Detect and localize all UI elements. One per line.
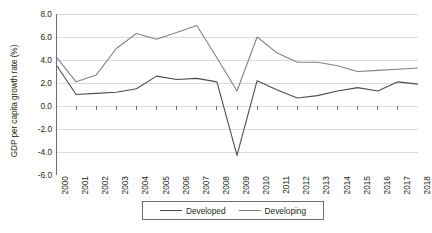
x-tick-label: 2017	[402, 176, 412, 210]
y-tick-label: -6.0	[26, 171, 52, 179]
y-tick-label: 4.0	[26, 56, 52, 64]
x-tick-label: 2014	[342, 176, 352, 210]
x-tick-label: 2001	[80, 176, 90, 210]
series-line	[56, 26, 418, 92]
data-series-lines	[56, 26, 418, 156]
x-tick-label: 2000	[60, 176, 70, 210]
legend-entry[interactable]: Developing	[239, 206, 307, 216]
legend-label: Developing	[265, 206, 307, 216]
legend-line-swatch	[160, 210, 182, 211]
x-tick-label: 2002	[100, 176, 110, 210]
x-tick-label: 2003	[120, 176, 130, 210]
x-tick-label: 2016	[382, 176, 392, 210]
y-axis-title: GDP per capita growth rate (%)	[7, 6, 21, 196]
y-tick-label: 8.0	[26, 10, 52, 18]
y-tick-label: 0.0	[26, 102, 52, 110]
legend-line-swatch	[239, 210, 261, 211]
chart-legend: DevelopedDeveloping	[142, 201, 324, 220]
gridlines	[56, 14, 418, 175]
x-tick-label: 2018	[422, 176, 432, 210]
legend-label: Developed	[186, 206, 226, 216]
plot-area	[56, 14, 418, 175]
series-line	[56, 65, 418, 156]
line-chart-svg	[56, 14, 418, 175]
y-tick-label: 6.0	[26, 33, 52, 41]
y-tick-label: -2.0	[26, 125, 52, 133]
y-tick-label: -4.0	[26, 148, 52, 156]
x-tick-label: 2015	[362, 176, 372, 210]
y-axis-tick-labels: 8.06.04.02.00.0-2.0-4.0-6.0	[22, 0, 52, 233]
x-axis-tick-marks	[56, 106, 418, 110]
y-tick-label: 2.0	[26, 79, 52, 87]
legend-entry[interactable]: Developed	[160, 206, 226, 216]
